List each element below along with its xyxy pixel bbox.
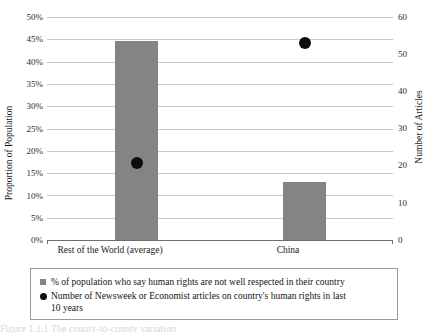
right-tick-40: 40 [398, 87, 407, 96]
gridline-40pct [47, 62, 393, 63]
dot-china [299, 37, 311, 49]
xtick-rest-of-world: Rest of the World (average) [45, 245, 175, 256]
figure-chart: 50% 45% 40% 35% 30% 25% 20% 15% 10% 5% 0… [0, 0, 431, 333]
legend-item-articles: Number of Newsweek or Economist articles… [40, 290, 351, 314]
left-tick-45: 45% [0, 35, 43, 44]
gridline-50pct [47, 17, 393, 18]
xtick-china: China [243, 245, 333, 256]
figure-caption-text: Figure 1.1.1 The county-to-county variat… [0, 325, 431, 333]
legend-label-articles: Number of Newsweek or Economist articles… [51, 290, 351, 314]
right-tick-30: 30 [398, 124, 407, 133]
x-axis-right-cap [392, 240, 393, 244]
gridline-35pct [47, 84, 393, 85]
bar-rest-of-world [115, 41, 158, 240]
right-tick-0: 0 [398, 236, 403, 245]
legend-label-population: % of population who say human rights are… [51, 276, 345, 288]
right-tick-10: 10 [398, 199, 407, 208]
square-marker-icon [40, 279, 46, 285]
gridline-5pct [47, 218, 393, 219]
left-tick-50: 50% [0, 13, 43, 22]
right-tick-20: 20 [398, 161, 407, 170]
plot-wrapper: 50% 45% 40% 35% 30% 25% 20% 15% 10% 5% 0… [0, 0, 431, 258]
x-axis-line [47, 240, 393, 241]
bar-china [283, 182, 326, 240]
chart-legend: % of population who say human rights are… [30, 268, 398, 320]
legend-item-population: % of population who say human rights are… [40, 276, 345, 288]
x-axis-left-cap [47, 240, 48, 244]
right-tick-50: 50 [398, 50, 407, 59]
left-tick-40: 40% [0, 58, 43, 67]
figure-caption-clipped: Figure 1.1.1 The county-to-county variat… [0, 325, 431, 333]
right-axis-title: Number of Articles [414, 67, 424, 187]
right-tick-60: 60 [398, 13, 407, 22]
gridline-20pct [47, 151, 393, 152]
left-tick-0: 0% [0, 236, 43, 245]
gridline-15pct [47, 173, 393, 174]
gridline-45pct [47, 39, 393, 40]
dot-rest-of-world [131, 157, 143, 169]
left-axis-title: Proportion of Population [4, 88, 14, 218]
plot-area [47, 17, 393, 240]
circle-marker-icon [40, 293, 47, 300]
gridline-30pct [47, 106, 393, 107]
gridline-10pct [47, 195, 393, 196]
gridline-25pct [47, 129, 393, 130]
